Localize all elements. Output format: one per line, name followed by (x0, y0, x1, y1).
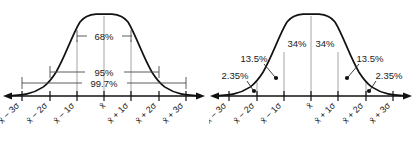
label-2-35-percent-left: 2.35% (222, 70, 249, 81)
figure-canvas: 68% 95% 99.7% (0, 0, 417, 145)
tick-label-minus-3-sigma: x̄ − 3σ (209, 100, 229, 125)
axis-arrow-left (3, 92, 12, 99)
band-labels-group: 34% 34% 13.5% 13.5% 2.35% 2.35% (222, 38, 403, 81)
tick-label-plus-2-sigma: x̄ + 2σ (340, 100, 365, 125)
label-95-percent: 95% (94, 67, 114, 78)
panel-empirical-rule-bands: 34% 34% 13.5% 13.5% 2.35% 2.35% (209, 0, 417, 145)
tick-label-mean: x̄ (304, 100, 315, 111)
tick-label-plus-1-sigma: x̄ + 1σ (312, 100, 337, 125)
dot-2-35-left (252, 89, 256, 93)
tick-label-mean: x̄ (97, 100, 108, 111)
panel-empirical-rule-intervals: 68% 95% 99.7% (0, 0, 208, 145)
gridlines-group (257, 16, 366, 96)
dot-2-35-right (367, 89, 371, 93)
label-34-percent-left: 34% (287, 38, 307, 49)
label-13-5-percent-left: 13.5% (241, 53, 268, 64)
axis-arrow-right (196, 92, 205, 99)
tick-label-plus-2-sigma: x̄ + 2σ (133, 100, 158, 125)
label-13-5-percent-right: 13.5% (357, 53, 384, 64)
axis-tick-labels-group: x̄ − 3σ x̄ − 2σ x̄ − 1σ x̄ x̄ + 1σ x̄ + … (209, 100, 393, 125)
label-34-percent-right: 34% (315, 38, 335, 49)
label-2-35-percent-right: 2.35% (376, 70, 403, 81)
tick-label-plus-1-sigma: x̄ + 1σ (105, 100, 130, 125)
bracket-68: 68% (77, 30, 132, 42)
bracket-95: 95% (50, 66, 159, 78)
tick-label-minus-1-sigma: x̄ − 1σ (51, 100, 76, 125)
label-68-percent: 68% (94, 31, 114, 42)
tick-label-minus-3-sigma: x̄ − 3σ (0, 100, 22, 125)
label-99-7-percent: 99.7% (91, 78, 118, 89)
dot-13-5-right (345, 76, 349, 80)
tick-label-minus-2-sigma: x̄ − 2σ (231, 100, 256, 125)
tick-label-plus-3-sigma: x̄ + 3σ (367, 100, 392, 125)
dot-13-5-left (274, 76, 278, 80)
leader-13-5-left (264, 64, 275, 77)
tick-label-plus-3-sigma: x̄ + 3σ (160, 100, 185, 125)
tick-label-minus-1-sigma: x̄ − 1σ (258, 100, 283, 125)
axis-arrow-right (403, 92, 412, 99)
axis-tick-labels-group: x̄ − 3σ x̄ − 2σ x̄ − 1σ x̄ x̄ + 1σ x̄ + … (0, 100, 186, 125)
bracket-99-7: 99.7% (22, 77, 186, 89)
tick-label-minus-2-sigma: x̄ − 2σ (24, 100, 49, 125)
axis-arrow-left (210, 92, 219, 99)
